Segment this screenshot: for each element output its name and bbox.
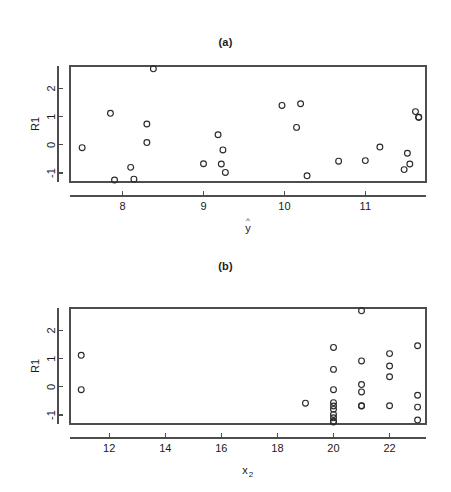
data-point — [401, 167, 407, 173]
data-point — [413, 109, 419, 115]
data-point — [415, 417, 421, 423]
data-point — [359, 308, 365, 314]
x-tick-label: 11 — [360, 200, 371, 212]
data-point — [150, 66, 156, 72]
x-tick-label: 12 — [103, 442, 115, 454]
data-point — [108, 110, 114, 116]
x-tick-label: 8 — [120, 200, 126, 212]
data-point — [303, 400, 309, 406]
data-point — [331, 366, 337, 372]
data-point — [359, 382, 365, 388]
data-point — [220, 147, 226, 153]
x-tick-label: 14 — [159, 442, 171, 454]
x-tick-label: 9 — [200, 200, 206, 212]
y-tick-label: 2 — [45, 327, 57, 333]
data-point-group — [78, 308, 420, 425]
data-point — [407, 161, 413, 167]
data-point — [404, 150, 410, 156]
data-point — [415, 343, 421, 349]
x-axis-title: y — [245, 222, 251, 234]
data-point — [218, 161, 224, 167]
data-point-group — [79, 66, 421, 183]
data-point — [336, 158, 342, 164]
data-point — [78, 352, 84, 358]
y-tick-label: 2 — [45, 85, 57, 91]
data-point — [222, 170, 228, 176]
x-tick-label: 18 — [271, 442, 283, 454]
x-tick-label: 20 — [327, 442, 339, 454]
data-point — [215, 132, 221, 138]
data-point — [131, 176, 137, 182]
plot-box — [70, 308, 426, 424]
y-tick-label: -1 — [45, 410, 57, 420]
data-point — [331, 345, 337, 351]
data-point — [416, 114, 422, 120]
y-tick-label: 0 — [45, 384, 57, 390]
data-point — [79, 145, 85, 151]
data-point — [279, 103, 285, 109]
data-point — [359, 358, 365, 364]
data-point — [144, 140, 150, 146]
x-axis-title-subscript: 2 — [249, 470, 254, 479]
data-point — [304, 173, 310, 179]
data-point — [377, 144, 383, 150]
data-point — [387, 403, 393, 409]
panel-a: (a) 891011-1012R1^y — [0, 0, 451, 246]
x-tick-label: 16 — [215, 442, 227, 454]
data-point — [415, 404, 421, 410]
data-point — [78, 387, 84, 393]
data-point — [359, 403, 365, 409]
data-point — [359, 389, 365, 395]
y-tick-label: -1 — [45, 168, 57, 178]
y-tick-label: 0 — [45, 142, 57, 148]
x-tick-label: 10 — [278, 200, 290, 212]
y-axis-title: R1 — [29, 117, 41, 131]
data-point — [144, 121, 150, 127]
panel-a-plot: 891011-1012R1^y — [0, 0, 451, 246]
y-tick-label: 1 — [45, 356, 57, 362]
data-point — [128, 164, 134, 170]
data-point — [331, 387, 337, 393]
data-point — [387, 351, 393, 357]
y-tick-label: 1 — [45, 114, 57, 120]
data-point — [387, 363, 393, 369]
x-axis-title: x — [242, 464, 248, 476]
plot-box — [70, 66, 426, 182]
data-point — [415, 392, 421, 398]
data-point — [298, 101, 304, 107]
data-point — [362, 158, 368, 164]
data-point — [201, 161, 207, 167]
data-point — [387, 374, 393, 380]
panel-b-plot: 121416182022-1012R1x2 — [0, 246, 451, 492]
y-axis-title: R1 — [29, 359, 41, 373]
panel-b: (b) 121416182022-1012R1x2 — [0, 246, 451, 492]
data-point — [294, 124, 300, 130]
x-tick-label: 22 — [383, 442, 395, 454]
